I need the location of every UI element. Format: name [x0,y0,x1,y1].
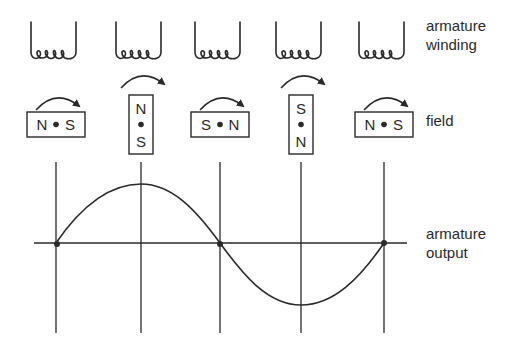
rotation-arrow-icon [36,98,79,110]
pole-label: S [393,116,403,133]
pole-label: N [296,133,307,150]
coil-icon [31,22,76,59]
zero-crossing-dot [54,241,60,247]
pole-label: N [37,116,48,133]
rotation-arrow-icon [364,98,407,110]
coil-icon [116,22,161,59]
coil-icon [359,22,404,59]
zero-crossing-dot [217,241,223,247]
label-line: winding [426,35,486,54]
field-magnet-horizontal [191,112,249,137]
rotation-arrow-icon [200,98,243,110]
zero-crossing-dot [381,240,387,246]
label-line: armature [426,16,486,35]
pole-label: N [365,116,376,133]
field-magnets [27,95,413,154]
pole-label: S [296,100,306,117]
pole-label: S [65,116,75,133]
armature-coils [31,22,404,59]
field-label: field [426,111,454,130]
coil-icon [195,22,240,59]
pole-label: N [136,100,147,117]
output-graph [34,162,407,333]
armature-winding-label: armature winding [426,16,486,54]
coil-icon [276,22,321,59]
pole-label: S [136,133,146,150]
label-line: armature [426,224,486,243]
rotation-arrow-icon [281,76,324,88]
armature-output-label: armature output [426,224,486,262]
rotation-arrows [36,76,407,110]
pole-label: S [201,116,211,133]
rotation-arrow-icon [121,76,164,88]
label-line: output [426,243,486,262]
pole-label: N [229,116,240,133]
